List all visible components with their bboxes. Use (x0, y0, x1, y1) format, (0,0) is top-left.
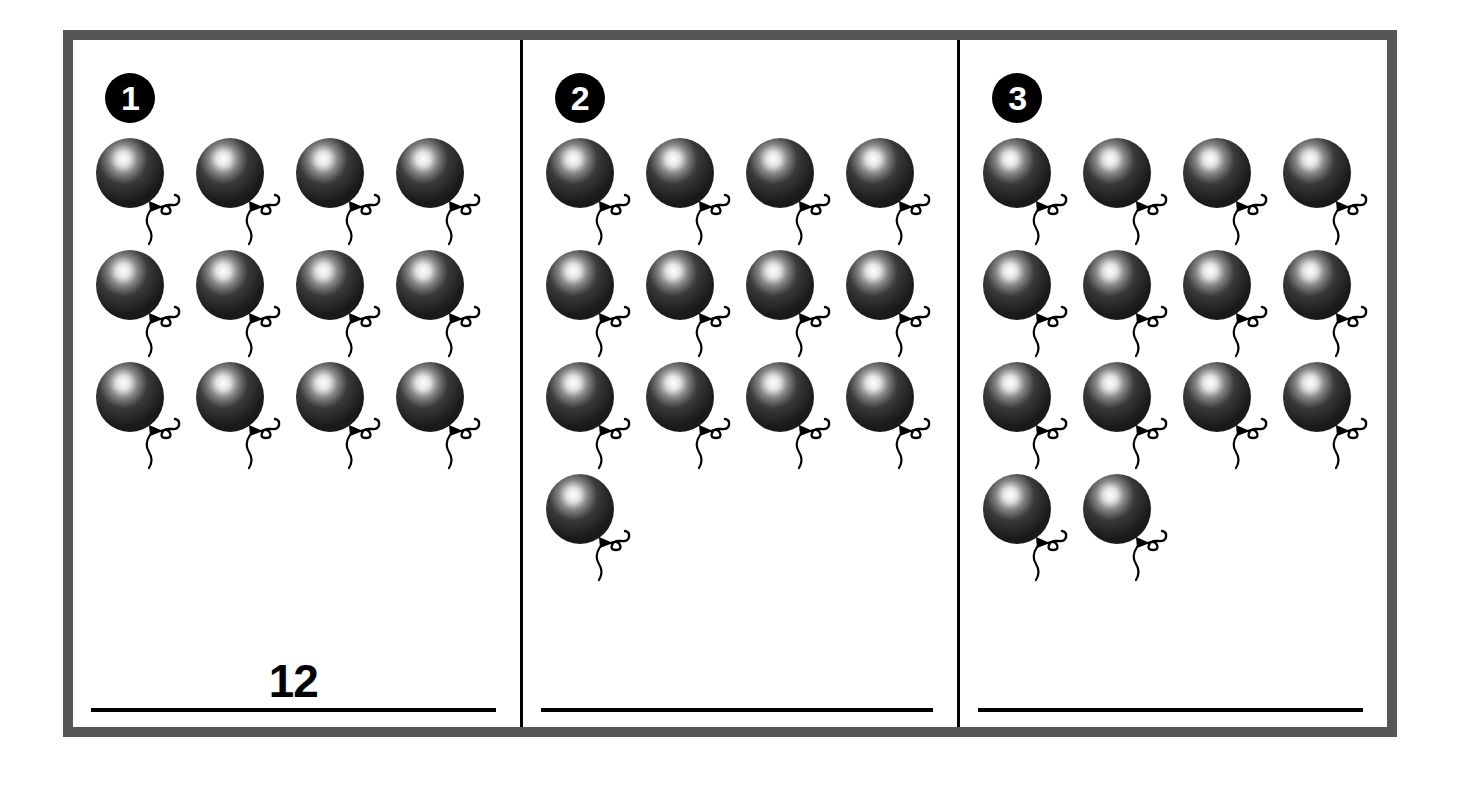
balloon-icon (980, 247, 1080, 359)
balloon-icon (1280, 359, 1380, 471)
balloon-icon (293, 135, 393, 247)
balloon-icon (1180, 359, 1280, 471)
panel-1: 1 (73, 40, 520, 727)
answer-area-1[interactable]: 12 (91, 642, 496, 712)
balloon-icon (543, 247, 643, 359)
balloon-icon (543, 471, 643, 583)
balloon-icon (743, 135, 843, 247)
balloon-group-1 (93, 135, 520, 607)
balloon-icon (980, 135, 1080, 247)
balloon-row (980, 471, 1387, 583)
balloon-row (543, 471, 958, 583)
panel-2: 2 (520, 40, 958, 727)
balloon-icon (93, 247, 193, 359)
balloon-group-2 (543, 135, 958, 607)
balloon-icon (193, 359, 293, 471)
worksheet-frame: 1 (63, 30, 1397, 737)
balloon-icon (843, 359, 943, 471)
balloon-icon (980, 471, 1080, 583)
answer-area-3[interactable] (978, 642, 1363, 712)
balloon-icon (743, 359, 843, 471)
answer-value-3 (978, 658, 1363, 706)
answer-line-1 (91, 708, 496, 712)
balloon-row (93, 359, 520, 471)
balloon-icon (643, 135, 743, 247)
balloon-row (543, 135, 958, 247)
balloon-row (980, 135, 1387, 247)
balloon-icon (93, 135, 193, 247)
balloon-row (543, 247, 958, 359)
balloon-icon (643, 359, 743, 471)
balloon-icon (980, 359, 1080, 471)
balloon-icon (93, 359, 193, 471)
balloon-icon (1180, 247, 1280, 359)
panel-number-3: 3 (992, 73, 1042, 123)
balloon-row (543, 359, 958, 471)
balloon-icon (193, 247, 293, 359)
balloon-row (980, 247, 1387, 359)
answer-line-2 (541, 708, 934, 712)
balloon-icon (843, 135, 943, 247)
balloon-row (980, 359, 1387, 471)
answer-area-2[interactable] (541, 642, 934, 712)
balloon-icon (393, 247, 493, 359)
answer-value-1: 12 (91, 658, 496, 706)
balloon-icon (743, 247, 843, 359)
balloon-row (93, 135, 520, 247)
panel-3: 3 (957, 40, 1387, 727)
balloon-icon (1080, 471, 1180, 583)
balloon-group-3 (980, 135, 1387, 607)
balloon-row (93, 247, 520, 359)
balloon-icon (393, 359, 493, 471)
balloon-icon (543, 135, 643, 247)
balloon-icon (643, 247, 743, 359)
balloon-icon (1080, 359, 1180, 471)
panel-number-2: 2 (555, 73, 605, 123)
balloon-icon (1280, 135, 1380, 247)
balloon-icon (1080, 247, 1180, 359)
balloon-icon (543, 359, 643, 471)
panel-number-1: 1 (105, 73, 155, 123)
panel-container: 1 (73, 40, 1387, 727)
answer-value-2 (541, 658, 934, 706)
balloon-icon (1180, 135, 1280, 247)
balloon-icon (843, 247, 943, 359)
balloon-icon (1080, 135, 1180, 247)
balloon-icon (193, 135, 293, 247)
balloon-icon (393, 135, 493, 247)
balloon-icon (1280, 247, 1380, 359)
balloon-icon (293, 247, 393, 359)
answer-line-3 (978, 708, 1363, 712)
balloon-icon (293, 359, 393, 471)
